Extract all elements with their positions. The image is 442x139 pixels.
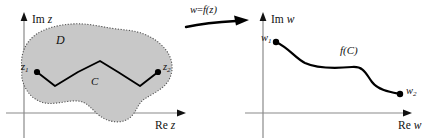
w-imaginary-axis-label: Im w	[271, 14, 294, 26]
point-w2-label: w2	[406, 86, 417, 98]
z-imaginary-axis-arrowhead	[21, 12, 28, 21]
curve-fc-path	[276, 42, 400, 94]
point-w2-base: w	[406, 85, 413, 96]
mapping-arrow-label-variable: w	[190, 4, 197, 15]
point-w1-dot	[273, 39, 279, 45]
mapping-arrow-shaft	[186, 21, 236, 27]
figure-graphics	[0, 0, 442, 139]
point-z2-subscript: 2	[167, 66, 171, 74]
point-w1-label: w1	[261, 33, 272, 45]
point-z2-dot	[155, 69, 161, 75]
mapping-arrow-label-function: f(z)	[203, 4, 217, 15]
point-w1-subscript: 1	[268, 37, 272, 45]
point-w2-dot	[397, 91, 403, 97]
w-imaginary-axis-arrowhead	[260, 12, 267, 21]
curve-c-label: C	[91, 76, 98, 87]
mapping-arrow-head	[234, 16, 249, 26]
z-real-axis-label-italic: z	[171, 119, 175, 131]
z-imaginary-axis-label: Im z	[32, 14, 52, 26]
w-imaginary-axis-label-italic: w	[287, 13, 295, 25]
w-real-axis-label-italic: w	[414, 119, 422, 131]
curve-fc-label: f(C)	[340, 45, 358, 56]
point-w1-base: w	[261, 32, 268, 43]
domain-d-label: D	[56, 34, 65, 46]
point-z1-subscript: 1	[25, 66, 29, 74]
w-plane-group	[245, 12, 412, 138]
z-real-axis-arrowhead	[177, 110, 186, 117]
point-z1-dot	[34, 69, 40, 75]
point-z1-label: z1	[21, 62, 29, 74]
complex-mapping-figure: Im z Re z D C z1 z2 w=f(z) Im w Re w f(C…	[0, 0, 442, 139]
z-real-axis-label: Re z	[155, 120, 175, 132]
w-real-axis-label-roman: Re	[398, 119, 411, 131]
w-imaginary-axis-label-roman: Im	[271, 13, 284, 25]
z-imaginary-axis-label-italic: z	[48, 13, 52, 25]
mapping-arrow-label: w=f(z)	[190, 5, 217, 16]
domain-d-region	[22, 24, 173, 122]
w-real-axis-arrowhead	[403, 110, 412, 117]
point-z2-label: z2	[163, 62, 171, 74]
point-w2-subscript: 2	[413, 90, 417, 98]
mapping-arrow-group	[186, 16, 249, 28]
w-real-axis-label: Re w	[398, 120, 421, 132]
z-imaginary-axis-label-roman: Im	[32, 13, 45, 25]
z-real-axis-label-roman: Re	[155, 119, 168, 131]
